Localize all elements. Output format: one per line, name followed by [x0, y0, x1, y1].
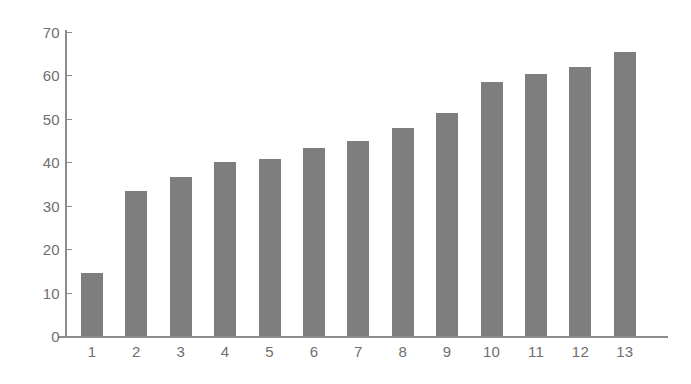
bar [347, 141, 369, 336]
x-axis-tick-label: 3 [161, 344, 201, 359]
plot-area: 010203040506070 12345678910111213 [0, 0, 691, 384]
bar [436, 113, 458, 336]
bar [259, 159, 281, 336]
bar [170, 177, 192, 336]
x-axis-tick-label: 8 [383, 344, 423, 359]
y-axis-tick [65, 75, 72, 76]
bar [525, 74, 547, 336]
y-axis-tick-label: 40 [22, 155, 60, 169]
y-axis-tick [65, 249, 72, 250]
bar [214, 162, 236, 336]
y-axis-tick-label-text: 10 [22, 286, 60, 301]
y-axis-tick-label: 50 [22, 112, 60, 126]
y-axis-tick-label-text: 20 [22, 242, 60, 257]
x-axis-tick-label: 5 [250, 344, 290, 359]
bar [125, 191, 147, 336]
y-axis-tick-label-text: 40 [22, 155, 60, 170]
bar [614, 52, 636, 336]
bar [569, 67, 591, 336]
bar [81, 273, 103, 336]
x-axis-tick-label: 11 [516, 344, 556, 359]
x-axis-tick-label: 7 [338, 344, 378, 359]
y-axis-tick-label: 70 [22, 25, 60, 39]
bar [481, 82, 503, 336]
y-axis-tick [65, 162, 72, 163]
y-axis-tick-label: 60 [22, 68, 60, 82]
bar [303, 148, 325, 336]
y-axis-tick-label: 20 [22, 242, 60, 256]
bar [392, 128, 414, 336]
y-axis-tick [65, 206, 72, 207]
x-axis-tick-label: 12 [560, 344, 600, 359]
x-axis-tick-label: 13 [605, 344, 645, 359]
x-axis-tick-label: 6 [294, 344, 334, 359]
x-axis-tick-label: 9 [427, 344, 467, 359]
y-axis-tick-label: 10 [22, 286, 60, 300]
x-axis-tick-label: 2 [116, 344, 156, 359]
y-axis-tick [65, 119, 72, 120]
y-axis-tick-label-text: 60 [22, 68, 60, 83]
y-axis-tick-label: 30 [22, 199, 60, 213]
x-axis-tick-label: 1 [72, 344, 112, 359]
y-axis-tick [65, 32, 72, 33]
x-axis-line [58, 336, 668, 338]
y-axis-tick-label-text: 30 [22, 199, 60, 214]
x-axis-tick-label: 10 [472, 344, 512, 359]
y-axis-tick-label-text: 70 [22, 25, 60, 40]
y-axis-tick-label-text: 0 [22, 329, 60, 344]
y-axis-tick-label-text: 50 [22, 112, 60, 127]
y-axis-tick [65, 336, 72, 337]
y-axis-tick-label: 0 [22, 329, 60, 343]
bar-chart: 010203040506070 12345678910111213 [0, 0, 691, 384]
x-axis-tick-label: 4 [205, 344, 245, 359]
y-axis-tick [65, 293, 72, 294]
